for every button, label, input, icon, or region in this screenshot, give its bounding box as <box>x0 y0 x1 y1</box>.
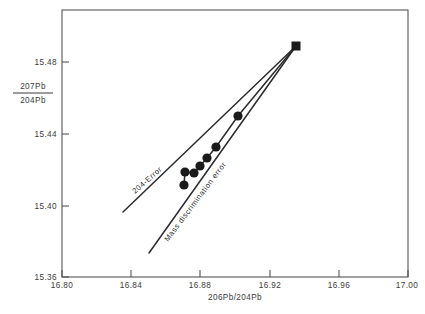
x-tick-label-4: 16.96 <box>328 281 351 290</box>
y-tick-label-1: 15.44 <box>35 130 58 139</box>
annotation-204-error: 204-Error <box>130 165 164 196</box>
data-point <box>202 153 211 162</box>
figure-container: 16.80 16.84 16.88 16.92 16.96 17.00 15.4… <box>0 0 425 314</box>
data-point <box>233 111 242 120</box>
x-axis-title: 206Pb/204Pb <box>208 293 262 302</box>
x-tick-label-1: 16.84 <box>120 281 143 290</box>
pb-isotope-scatter-plot: 16.80 16.84 16.88 16.92 16.96 17.00 15.4… <box>0 0 425 314</box>
y-tick-label-3: 15.36 <box>35 273 58 282</box>
y-tick-label-0: 15.48 <box>35 58 58 67</box>
data-point <box>195 161 204 170</box>
x-tick-label-3: 16.92 <box>259 281 282 290</box>
reference-point-square <box>292 42 301 51</box>
x-tick-label-5: 17.00 <box>396 281 419 290</box>
y-axis-title-numerator: 207Pb <box>20 82 46 91</box>
x-tick-label-2: 16.88 <box>189 281 212 290</box>
data-point <box>179 180 188 189</box>
data-point <box>189 168 198 177</box>
y-axis-tickmarks <box>62 62 69 277</box>
error-line-mass-discrimination <box>149 46 296 253</box>
x-axis-tickmarks <box>62 270 408 277</box>
y-tick-label-2: 15.40 <box>35 202 58 211</box>
plot-frame <box>62 10 408 277</box>
data-point <box>211 142 220 151</box>
y-axis-title-denominator: 204Pb <box>20 96 46 105</box>
x-tick-label-0: 16.80 <box>51 281 74 290</box>
data-point <box>180 167 189 176</box>
y-axis-title: 207Pb 204Pb <box>13 82 53 105</box>
